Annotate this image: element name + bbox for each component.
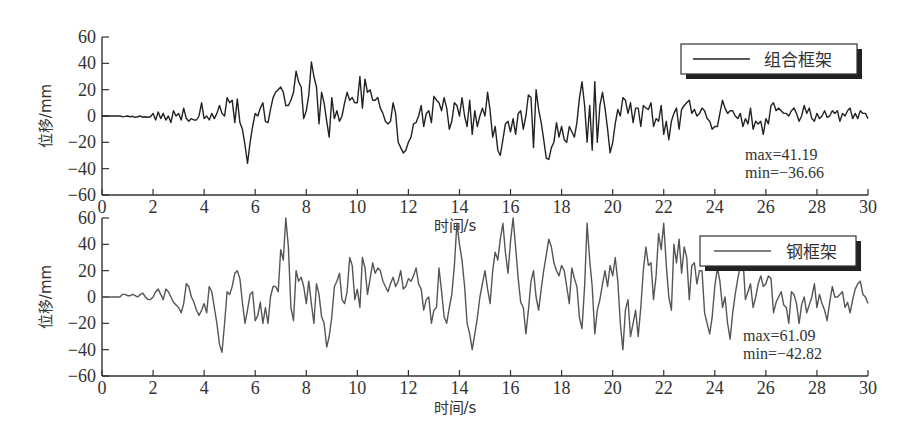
- x-tick-label: 24: [706, 378, 724, 398]
- composite-frame-plot: 6040200−20−40−60024681012141618202224262…: [37, 27, 877, 235]
- y-tick-label: 0: [87, 287, 96, 307]
- x-tick-label: 26: [757, 378, 775, 398]
- y-tick-label: 0: [87, 106, 96, 126]
- x-tick-label: 0: [98, 197, 107, 217]
- x-tick-label: 16: [502, 378, 520, 398]
- x-tick-label: 4: [200, 378, 209, 398]
- x-tick-label: 6: [251, 197, 260, 217]
- x-tick-label: 12: [399, 378, 417, 398]
- steel-frame-plot: 6040200−20−40−60024681012141618202224262…: [37, 208, 877, 417]
- x-tick-label: 20: [604, 197, 622, 217]
- x-tick-label: 22: [655, 378, 673, 398]
- displacement-time-history-figure: 6040200−20−40−60024681012141618202224262…: [0, 0, 907, 440]
- y-tick-label: −40: [68, 159, 96, 179]
- x-tick-label: 0: [98, 378, 107, 398]
- x-tick-label: 18: [553, 378, 571, 398]
- min-value-annotation: min=−36.66: [745, 164, 824, 181]
- y-tick-label: 20: [78, 80, 96, 100]
- x-tick-label: 28: [808, 197, 826, 217]
- y-tick-label: −20: [68, 313, 96, 333]
- legend-label: 组合框架: [764, 50, 832, 70]
- y-tick-label: −40: [68, 340, 96, 360]
- y-tick-label: 40: [78, 234, 96, 254]
- legend-label: 钢框架: [786, 242, 837, 262]
- max-value-annotation: max=61.09: [743, 327, 816, 344]
- min-value-annotation: min=−42.82: [743, 345, 822, 362]
- x-axis-title: 时间/s: [434, 399, 477, 417]
- x-tick-label: 10: [348, 378, 366, 398]
- max-value-annotation: max=41.19: [745, 146, 818, 163]
- y-tick-label: −60: [68, 366, 96, 386]
- x-axis-title: 时间/s: [434, 217, 477, 235]
- y-tick-label: −20: [68, 132, 96, 152]
- x-tick-label: 22: [655, 197, 673, 217]
- x-tick-label: 30: [859, 197, 877, 217]
- steel-frame-legend: 钢框架: [700, 236, 861, 271]
- y-tick-label: 60: [78, 208, 96, 228]
- x-tick-label: 30: [859, 378, 877, 398]
- x-tick-label: 18: [553, 197, 571, 217]
- y-axis-title: 位移/mm: [37, 265, 55, 329]
- x-tick-label: 4: [200, 197, 209, 217]
- y-tick-label: 40: [78, 53, 96, 73]
- x-tick-label: 8: [302, 197, 311, 217]
- x-tick-label: 24: [706, 197, 724, 217]
- x-tick-label: 2: [149, 378, 158, 398]
- x-tick-label: 20: [604, 378, 622, 398]
- y-tick-label: 20: [78, 261, 96, 281]
- x-tick-label: 8: [302, 378, 311, 398]
- x-tick-label: 14: [450, 197, 468, 217]
- y-tick-label: 60: [78, 27, 96, 47]
- x-tick-label: 6: [251, 378, 260, 398]
- composite-frame-legend: 组合框架: [681, 44, 862, 79]
- x-tick-label: 12: [399, 197, 417, 217]
- x-tick-label: 2: [149, 197, 158, 217]
- x-tick-label: 28: [808, 378, 826, 398]
- x-tick-label: 16: [502, 197, 520, 217]
- y-axis-title: 位移/mm: [37, 84, 55, 148]
- x-tick-label: 26: [757, 197, 775, 217]
- x-tick-label: 10: [348, 197, 366, 217]
- y-tick-label: −60: [68, 185, 96, 205]
- x-tick-label: 14: [450, 378, 468, 398]
